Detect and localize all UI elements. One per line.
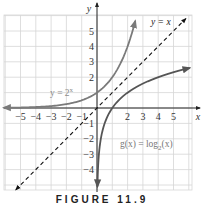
x-tick-label: −5 xyxy=(15,111,26,122)
tick-labels: −5−4−3−2−123455432−1−2−3−4xy xyxy=(15,3,201,175)
figure-caption: FIGURE 11.9 xyxy=(0,194,204,205)
x-tick-label: −4 xyxy=(30,111,41,122)
y-tick-label: 3 xyxy=(89,56,94,67)
x-axis-label: x xyxy=(195,111,201,122)
x-tick-label: 2 xyxy=(125,111,130,122)
log-exp-graph: −5−4−3−2−123455432−1−2−3−4xy y = 2xg(x) … xyxy=(0,0,204,207)
y-tick-label: −3 xyxy=(83,149,94,160)
y-tick-label: 4 xyxy=(89,41,94,52)
x-tick-label: −3 xyxy=(46,111,57,122)
x-tick-label: 3 xyxy=(140,111,145,122)
x-tick-label: −2 xyxy=(61,111,72,122)
label-identity: y = x xyxy=(150,17,171,27)
x-tick-label: 4 xyxy=(156,111,161,122)
y-tick-label: −4 xyxy=(83,164,94,175)
label-exp: y = 2x xyxy=(50,86,74,98)
y-tick-label: 5 xyxy=(89,26,94,37)
x-tick-label: 5 xyxy=(171,111,176,122)
label-log-tail: (x) xyxy=(162,139,173,150)
y-tick-label: 2 xyxy=(89,72,94,83)
label-exp-sup: x xyxy=(70,86,74,94)
curve-log xyxy=(97,68,189,187)
y-axis-label: y xyxy=(86,3,92,14)
y-tick-label: −2 xyxy=(83,133,94,144)
curve-labels: y = 2xg(x) = log2(x)y = x xyxy=(50,17,173,152)
line-y-equals-x xyxy=(16,19,186,190)
